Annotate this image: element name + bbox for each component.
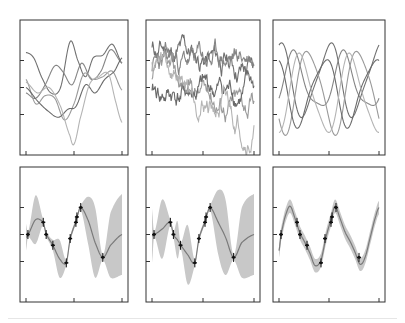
plot-area xyxy=(152,35,254,158)
sample-line xyxy=(26,58,122,117)
gp-figure xyxy=(0,0,405,323)
subplot-prior-rough xyxy=(146,20,260,158)
axes-frame xyxy=(20,20,128,155)
bottom-divider xyxy=(8,318,397,319)
subplot-prior-smooth xyxy=(20,20,128,155)
subplot-posterior-smooth xyxy=(20,167,128,302)
uncertainty-band xyxy=(26,194,122,278)
subplot-posterior-rough xyxy=(146,167,260,302)
plot-area xyxy=(26,41,122,145)
sample-line xyxy=(152,70,254,106)
subplot-posterior-periodic xyxy=(273,167,385,302)
plot-area xyxy=(279,43,379,136)
sample-line xyxy=(26,41,122,94)
uncertainty-band xyxy=(152,190,254,285)
plot-area xyxy=(152,190,254,285)
axes-frame xyxy=(273,167,385,302)
plot-area xyxy=(26,194,122,278)
subplot-prior-periodic xyxy=(273,20,385,155)
sample-line xyxy=(26,71,122,120)
plot-area xyxy=(279,199,379,272)
uncertainty-band xyxy=(279,199,379,272)
